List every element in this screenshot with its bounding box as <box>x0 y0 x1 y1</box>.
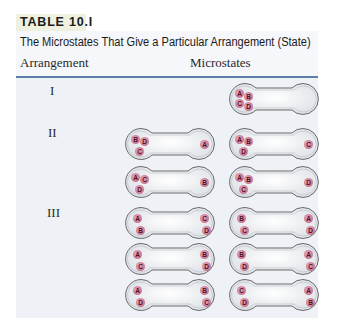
microstate-dumbbell: ADBC <box>124 278 216 312</box>
molecule-c: C <box>306 262 315 271</box>
molecule-b: B <box>237 250 246 259</box>
microstate-dumbbell: ACBD <box>124 242 216 276</box>
arrangement-label-iii: III <box>47 205 60 221</box>
molecule-a: A <box>200 140 209 149</box>
microstate-dumbbell: CDAB <box>228 278 320 312</box>
molecule-c: C <box>136 262 145 271</box>
microstate-dumbbell: ABCD <box>228 82 320 116</box>
molecule-a: A <box>304 286 313 295</box>
molecule-a: A <box>133 250 142 259</box>
molecule-c: C <box>235 99 244 108</box>
molecule-b: B <box>131 135 140 144</box>
molecule-d: D <box>135 185 144 194</box>
molecule-d: D <box>306 226 315 235</box>
microstate-dumbbell: BDCA <box>124 127 216 161</box>
molecule-c: C <box>140 175 149 184</box>
microstate-dumbbell: ABCD <box>124 206 216 240</box>
column-header-microstates: Microstates <box>190 55 251 71</box>
molecule-c: C <box>200 214 209 223</box>
molecule-d: D <box>202 262 211 271</box>
arrangement-label-i: I <box>50 83 54 99</box>
molecule-d: D <box>239 147 248 156</box>
molecule-b: B <box>244 137 253 146</box>
molecule-b: B <box>200 250 209 259</box>
microstate-dumbbell: ABCD <box>228 165 320 199</box>
molecule-c: C <box>239 185 248 194</box>
molecule-d: D <box>304 178 313 187</box>
microstate-dumbbell: ABDC <box>228 127 320 161</box>
molecule-c: C <box>304 140 313 149</box>
molecule-a: A <box>133 286 142 295</box>
table-caption: The Microstates That Give a Particular A… <box>20 35 311 49</box>
table-label: TABLE 10.I <box>20 15 93 29</box>
molecule-b: B <box>244 175 253 184</box>
molecule-a: A <box>235 89 244 98</box>
molecule-d: D <box>240 298 249 307</box>
molecule-b: B <box>244 92 253 101</box>
molecule-c: C <box>240 226 249 235</box>
molecule-d: D <box>202 226 211 235</box>
molecule-d: D <box>244 102 253 111</box>
microstate-dumbbell: BCAD <box>228 206 320 240</box>
molecule-b: B <box>200 286 209 295</box>
molecule-c: C <box>202 298 211 307</box>
column-header-arrangement: Arrangement <box>20 55 89 71</box>
molecule-d: D <box>240 262 249 271</box>
molecule-c: C <box>135 147 144 156</box>
arrangement-label-ii: II <box>48 125 57 141</box>
molecule-c: C <box>237 286 246 295</box>
molecule-d: D <box>140 137 149 146</box>
molecule-b: B <box>306 298 315 307</box>
molecule-b: B <box>200 178 209 187</box>
molecule-a: A <box>304 250 313 259</box>
molecule-a: A <box>235 135 244 144</box>
molecule-b: B <box>136 226 145 235</box>
molecule-a: A <box>133 214 142 223</box>
molecule-a: A <box>131 173 140 182</box>
molecule-a: A <box>304 214 313 223</box>
molecule-d: D <box>136 298 145 307</box>
molecule-a: A <box>235 173 244 182</box>
molecule-b: B <box>237 214 246 223</box>
microstate-dumbbell: BDAC <box>228 242 320 276</box>
microstate-dumbbell: ACDB <box>124 165 216 199</box>
